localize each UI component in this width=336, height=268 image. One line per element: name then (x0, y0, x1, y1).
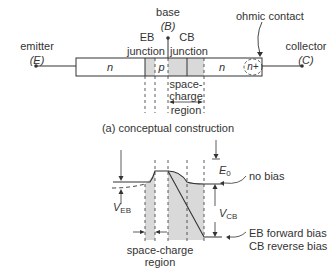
emitter-region-label: n (100, 61, 120, 73)
eb-junction-label-2: junction (124, 45, 168, 57)
veb-subscript: EB (120, 206, 131, 215)
base-terminal (166, 36, 170, 40)
collector-symbol: (C) (280, 54, 332, 66)
space-charge-label-1: space- (166, 78, 206, 90)
bias-leader (230, 232, 246, 237)
collector-region-label: n (212, 61, 232, 73)
collector-label: collector (280, 40, 332, 52)
e0-label: E0 (219, 164, 231, 180)
eb-depletion-shade (145, 58, 155, 76)
scr-label-1: space-charge (120, 244, 200, 256)
scr-label-2: region (120, 256, 200, 268)
eb-junction-label-1: EB (132, 31, 162, 43)
cb-junction-label-1: CB (172, 31, 202, 43)
cb-junction-label-2: junction (167, 45, 211, 57)
e0-subscript: 0 (226, 169, 230, 178)
space-charge-label-2: charge (166, 90, 206, 102)
cb-depletion-shade (168, 58, 204, 76)
forward-bias-emitter-band (112, 184, 145, 188)
emitter-symbol: (E) (14, 54, 60, 66)
emitter-label: emitter (14, 40, 60, 52)
forward-bias-label: EB forward bias (249, 227, 327, 239)
veb-label: VEB (113, 201, 131, 217)
caption-a: (a) conceptual construction (80, 122, 256, 134)
vcb-subscript: CB (226, 212, 237, 221)
base-label: base (147, 6, 189, 18)
base-region-label: p (156, 61, 167, 73)
no-bias-label: no bias (249, 170, 284, 182)
contact-region-label: n+ (244, 61, 262, 73)
no-bias-band (113, 171, 222, 184)
vcb-label: VCB (219, 207, 237, 223)
reverse-bias-label: CB reverse bias (249, 240, 327, 252)
space-charge-label-3: region (166, 104, 206, 116)
ohmic-contact-label: ohmic contact (236, 10, 304, 22)
ohmic-contact-arrow (258, 22, 262, 54)
